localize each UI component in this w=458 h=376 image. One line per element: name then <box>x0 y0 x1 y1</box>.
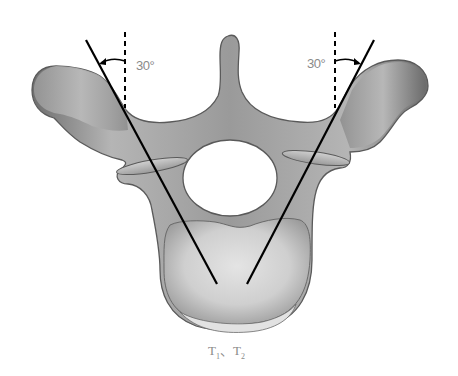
caption-separator: 、 <box>220 343 233 358</box>
caption-t2: T <box>233 343 241 358</box>
left-arrowhead-icon <box>99 58 106 65</box>
vertebra-illustration <box>0 0 458 376</box>
caption-t1: T <box>208 343 216 358</box>
vertebra-diagram: 30° 30° T1、T2 <box>0 0 458 376</box>
right-arrowhead-icon <box>354 58 361 65</box>
caption-t2-sub: 2 <box>241 352 245 361</box>
right-angle-label: 30° <box>307 56 325 71</box>
vertebral-body <box>164 218 310 324</box>
left-angle-label: 30° <box>136 58 154 73</box>
vertebra-caption: T1、T2 <box>208 340 245 361</box>
spinal-canal <box>183 140 277 216</box>
